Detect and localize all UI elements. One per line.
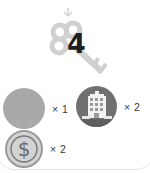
resource-quantity: × 2 <box>124 101 140 113</box>
resource-quantity: × 2 <box>50 143 66 155</box>
resource-building: × 2 <box>76 86 140 127</box>
resource-coin: $ × 2 <box>5 130 66 168</box>
dollar-coin-icon: $ <box>5 130 43 168</box>
svg-text:$: $ <box>18 137 31 161</box>
blank-resource-icon <box>3 88 45 129</box>
resource-blank: × 1 <box>3 88 68 129</box>
resource-quantity: × 1 <box>52 103 68 115</box>
building-icon <box>76 86 117 127</box>
key-count: 4 <box>67 30 86 57</box>
